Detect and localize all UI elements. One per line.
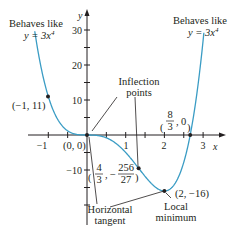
label-root: ( 8 3 , 0 ) bbox=[160, 109, 191, 134]
svg-text:3: 3 bbox=[167, 121, 172, 132]
local-min-callout bbox=[166, 193, 171, 198]
y-tick-label-30: 30 bbox=[72, 25, 82, 36]
left-equation-label: y = 3x4 bbox=[23, 29, 55, 41]
svg-text:,: , bbox=[176, 116, 179, 127]
svg-text:3: 3 bbox=[96, 174, 101, 185]
right-behaves-label: Behaves like bbox=[173, 15, 227, 26]
point-neg1-11 bbox=[46, 95, 50, 99]
svg-text:256: 256 bbox=[118, 162, 134, 173]
svg-text:−: − bbox=[110, 169, 116, 180]
y-axis-arrow-icon bbox=[85, 9, 90, 16]
label-origin: (0, 0) bbox=[63, 140, 86, 152]
local-min-label-1: Local bbox=[164, 201, 188, 212]
callout-lines bbox=[89, 97, 171, 207]
inflection-callout-2 bbox=[135, 97, 138, 166]
x-axis-label: x bbox=[212, 141, 218, 152]
svg-text:(: ( bbox=[88, 172, 92, 184]
label-inflection: ( 4 3 , − 256 27 ) bbox=[88, 162, 139, 185]
y-tick-label-20: 20 bbox=[72, 60, 82, 71]
svg-text:(: ( bbox=[160, 122, 164, 134]
label-neg1-11: (−1, 11) bbox=[12, 100, 46, 112]
local-min-label-2: minimum bbox=[156, 212, 197, 223]
point-origin bbox=[85, 133, 89, 137]
x-tick-label-3: 3 bbox=[201, 140, 206, 151]
svg-text:8: 8 bbox=[167, 109, 172, 120]
svg-text:,: , bbox=[105, 169, 108, 180]
x-tick-label-2: 2 bbox=[162, 140, 167, 151]
x-axis-arrow-icon bbox=[219, 133, 226, 138]
horizontal-tangent-label-1: Horizontal bbox=[88, 204, 133, 215]
x-tick-label-1: 1 bbox=[124, 140, 129, 151]
svg-text:): ) bbox=[135, 172, 139, 184]
left-behaves-label: Behaves like bbox=[9, 18, 63, 29]
point-inflection bbox=[137, 166, 141, 170]
y-tick-label-10: 10 bbox=[72, 95, 82, 106]
inflection-label-2: points bbox=[126, 87, 152, 98]
y-axis-label: y bbox=[77, 10, 83, 21]
horizontal-tangent-label-2: tangent bbox=[95, 215, 126, 226]
right-equation-label: y = 3x4 bbox=[187, 26, 219, 38]
inflection-label-1: Inflection bbox=[119, 76, 161, 87]
svg-text:): ) bbox=[187, 122, 191, 134]
svg-text:27: 27 bbox=[121, 174, 132, 185]
svg-text:4: 4 bbox=[96, 162, 102, 173]
y-tick-label-neg10: −10 bbox=[66, 165, 82, 176]
x-tick-label-neg1: −1 bbox=[37, 140, 48, 151]
svg-text:0: 0 bbox=[181, 116, 186, 127]
chart-canvas: −1 1 2 3 30 20 10 −10 x y Behaves like y… bbox=[0, 0, 233, 235]
label-local-min: (2, −16) bbox=[175, 188, 209, 200]
point-local-min bbox=[162, 189, 166, 193]
point-root bbox=[188, 133, 192, 137]
inflection-callout-1 bbox=[92, 97, 117, 131]
